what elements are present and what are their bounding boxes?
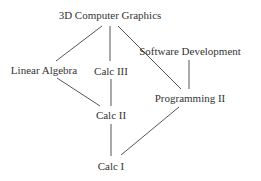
node-calc-i: Calc I — [98, 161, 125, 172]
edges-layer — [0, 0, 261, 181]
node-software-development: Software Development — [139, 46, 241, 57]
edge-p2-c1 — [121, 107, 179, 155]
node-calc-iii: Calc III — [94, 66, 128, 77]
node-programming-ii: Programming II — [155, 93, 226, 104]
edge-cg-la — [56, 26, 102, 61]
node-linear-algebra: Linear Algebra — [11, 65, 77, 76]
prerequisite-diagram: 3D Computer Graphics Software Developmen… — [0, 0, 261, 181]
node-3d-computer-graphics: 3D Computer Graphics — [59, 10, 162, 21]
node-calc-ii: Calc II — [96, 110, 126, 121]
edge-la-c2 — [57, 78, 100, 106]
edge-cg-p2 — [118, 26, 181, 89]
